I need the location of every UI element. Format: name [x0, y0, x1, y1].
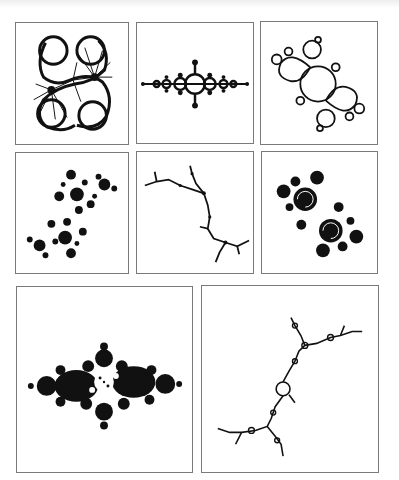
fractal-bubble-chain-image — [137, 23, 253, 143]
julia-panel-2 — [136, 22, 254, 144]
julia-panel-1 — [15, 22, 129, 145]
fractal-fans-image — [16, 23, 128, 144]
julia-panel-6 — [261, 151, 378, 274]
fractal-dense-spiral-image — [17, 287, 192, 472]
fractal-double-spiral-image — [262, 152, 377, 273]
fractal-dust-image — [16, 153, 128, 273]
fractal-three-arm-dendrite-image — [202, 286, 378, 472]
fractal-rabbit-image — [261, 22, 377, 144]
julia-panel-5 — [136, 151, 254, 274]
julia-panel-3 — [260, 21, 378, 145]
scan-bleed-strip — [0, 0, 399, 8]
julia-panel-4 — [15, 152, 129, 274]
julia-panel-8 — [201, 285, 379, 473]
fractal-dendrite-image — [137, 152, 253, 273]
julia-panel-7 — [16, 286, 193, 473]
